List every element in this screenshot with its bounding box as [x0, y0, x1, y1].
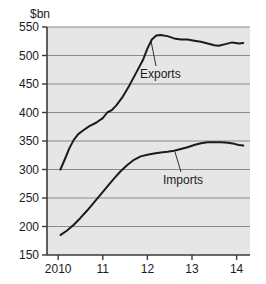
y-tick-label: 200	[19, 220, 39, 234]
x-tick-label: 2010	[45, 262, 72, 276]
y-tick-label: 150	[19, 248, 39, 262]
y-tick-label: 400	[19, 106, 39, 120]
y-tick-label: 300	[19, 163, 39, 177]
x-tick-label: 11	[97, 262, 110, 276]
y-tick-label: 350	[19, 134, 39, 148]
x-tick-label: 13	[185, 262, 199, 276]
y-tick-label: 250	[19, 191, 39, 205]
y-tick-label: 450	[19, 77, 39, 91]
series-label-exports: Exports	[140, 67, 181, 81]
chart-container: 150200250300350400450500550 201011121314…	[0, 0, 266, 284]
x-tick-label: 14	[230, 262, 244, 276]
y-axis-tick-labels: 150200250300350400450500550	[19, 20, 39, 262]
trade-line-chart: 150200250300350400450500550 201011121314…	[0, 0, 266, 284]
series-label-imports: Imports	[163, 173, 203, 187]
y-tick-label: 550	[19, 20, 39, 34]
y-axis-title: $bn	[30, 7, 50, 21]
x-tick-label: 12	[141, 262, 155, 276]
y-tick-label: 500	[19, 49, 39, 63]
